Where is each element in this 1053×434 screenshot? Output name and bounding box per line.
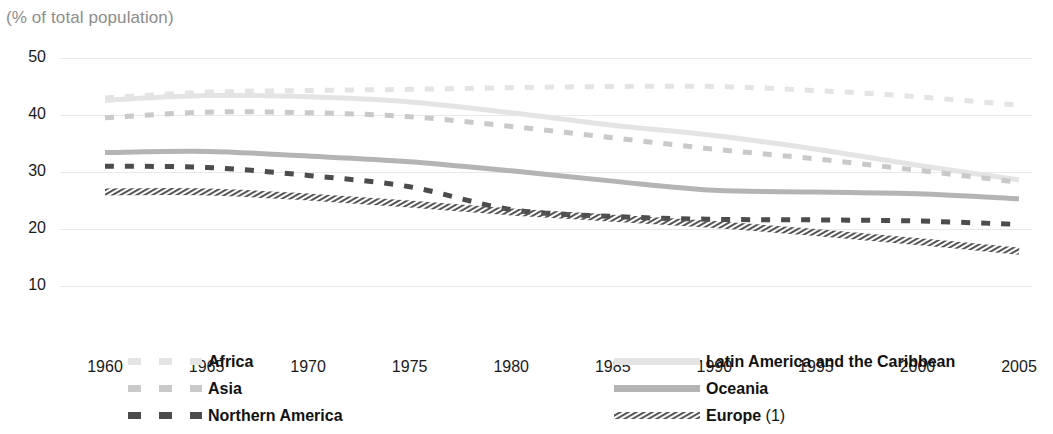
- legend-swatch-icon: [614, 353, 700, 371]
- figure-subtitle: (% of total population): [6, 8, 174, 28]
- legend-swatch-icon: [128, 407, 202, 425]
- legend-item-label: Latin America and the Caribbean: [706, 353, 955, 371]
- legend-item[interactable]: Africa: [128, 348, 343, 375]
- y-axis-tick: 10: [0, 276, 46, 294]
- legend-item[interactable]: Northern America: [128, 402, 343, 429]
- series-lines: [60, 58, 1032, 286]
- gridline: [60, 286, 1032, 287]
- legend-item-label: Northern America: [208, 407, 343, 425]
- y-axis-tick: 20: [0, 219, 46, 237]
- legend-item[interactable]: Europe (1): [614, 402, 955, 429]
- legend-item[interactable]: Latin America and the Caribbean: [614, 348, 955, 375]
- chart-figure: Figure: Urban population (% of total pop…: [0, 0, 1053, 434]
- y-axis-tick: 40: [0, 105, 46, 123]
- series-line: [105, 95, 1019, 180]
- series-line: [105, 112, 1019, 183]
- legend-item-label: Africa: [208, 353, 253, 371]
- plot-area: 5040302010 19601965197019751980198519901…: [60, 58, 1032, 286]
- y-axis-tick: 50: [0, 48, 46, 66]
- legend-swatch-icon: [128, 380, 202, 398]
- legend-swatch-icon: [128, 353, 202, 371]
- legend-item[interactable]: Asia: [128, 375, 343, 402]
- legend-item-label: Oceania: [706, 380, 768, 398]
- legend-item-label: Asia: [208, 380, 242, 398]
- chart-legend: AfricaAsiaNorthern America Latin America…: [0, 348, 1053, 434]
- legend-column-left: AfricaAsiaNorthern America: [128, 348, 343, 429]
- legend-item[interactable]: Oceania: [614, 375, 955, 402]
- legend-column-right: Latin America and the CaribbeanOceaniaEu…: [614, 348, 955, 429]
- legend-item-label: Europe (1): [706, 407, 785, 425]
- legend-swatch-icon: [614, 380, 700, 398]
- legend-item-note: (1): [761, 407, 785, 424]
- y-axis-tick: 30: [0, 162, 46, 180]
- legend-swatch-icon: [614, 407, 700, 425]
